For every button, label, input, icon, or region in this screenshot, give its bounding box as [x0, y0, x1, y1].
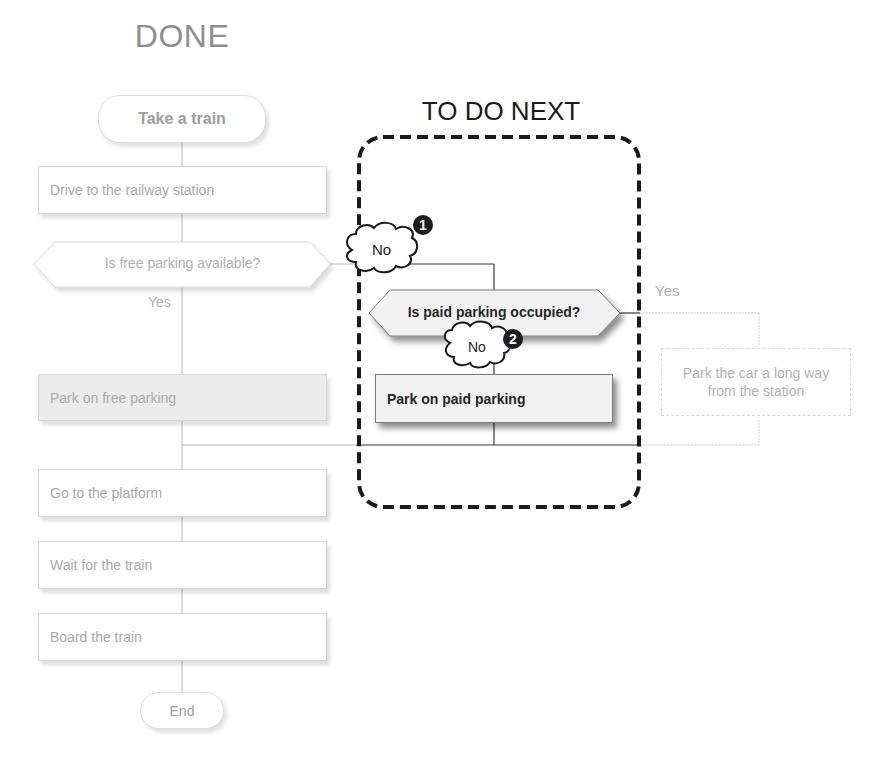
no-label-1: No	[372, 241, 391, 258]
end-label: End	[170, 703, 195, 719]
step-number-badge-1: 1	[413, 215, 433, 235]
step-go-to-platform[interactable]: Go to the platform	[38, 469, 327, 517]
step-wait-for-train[interactable]: Wait for the train	[38, 541, 327, 589]
step-label: Park the car a long way from the station	[668, 364, 844, 400]
step-label: Park on paid parking	[387, 391, 525, 407]
no-label-2: No	[468, 339, 486, 355]
step-park-far-away[interactable]: Park the car a long way from the station	[661, 348, 851, 416]
start-terminal[interactable]: Take a train	[98, 95, 266, 143]
end-terminal[interactable]: End	[140, 692, 224, 729]
decision-free-parking-label[interactable]: Is free parking available?	[55, 255, 310, 271]
step-label: Drive to the railway station	[50, 182, 214, 198]
heading-done: DONE	[0, 18, 364, 55]
step-label: Park on free parking	[50, 390, 176, 406]
step-park-free[interactable]: Park on free parking	[38, 374, 327, 421]
step-number-badge-2: 2	[503, 329, 523, 349]
step-label: Go to the platform	[50, 485, 162, 501]
step-board-train[interactable]: Board the train	[38, 613, 327, 661]
step-label: Board the train	[50, 629, 142, 645]
yes-label-free-parking: Yes	[148, 294, 171, 310]
start-label: Take a train	[138, 110, 226, 128]
heading-to-do-next: TO DO NEXT	[356, 96, 646, 127]
yes-label-paid-parking: Yes	[655, 282, 679, 299]
step-label: Wait for the train	[50, 557, 152, 573]
step-drive-to-station[interactable]: Drive to the railway station	[38, 166, 327, 214]
decision-paid-parking-label[interactable]: Is paid parking occupied?	[376, 304, 612, 320]
step-park-paid[interactable]: Park on paid parking	[375, 374, 613, 423]
